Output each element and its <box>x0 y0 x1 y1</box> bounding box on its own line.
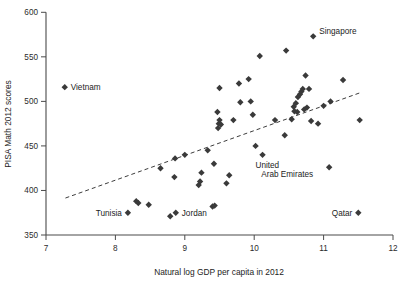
data-point-marker <box>326 164 332 170</box>
data-point-marker <box>282 132 288 138</box>
data-point-marker <box>302 72 308 78</box>
point-label: Vietnam <box>71 83 101 92</box>
x-tick-label: 8 <box>113 244 118 253</box>
y-axis-title: PISA Math 2012 scores <box>3 80 13 168</box>
data-point-marker <box>257 53 263 59</box>
y-tick-label: 550 <box>24 53 38 62</box>
x-axis-ticks: 789101112 <box>44 235 398 253</box>
point-label: Singapore <box>319 27 357 36</box>
data-point-marker <box>182 152 188 158</box>
data-point-marker <box>226 172 232 178</box>
data-point-marker <box>248 98 254 104</box>
point-label: Jordan <box>182 209 207 218</box>
data-point-marker <box>340 77 346 83</box>
x-tick-label: 12 <box>388 244 398 253</box>
data-point-marker <box>306 86 312 92</box>
y-tick-label: 400 <box>24 186 38 195</box>
data-point-marker <box>216 85 222 91</box>
y-axis-ticks: 350400450500550600 <box>24 8 46 240</box>
data-point-marker <box>320 103 326 109</box>
data-point-marker <box>245 76 251 82</box>
data-point-marker <box>283 47 289 53</box>
scatter-chart: 350400450500550600 789101112 VietnamTuni… <box>0 0 404 285</box>
y-tick-label: 450 <box>24 142 38 151</box>
data-point-marker <box>310 33 316 39</box>
data-point-marker <box>250 112 256 118</box>
data-point-marker <box>237 99 243 105</box>
data-point-marker <box>198 169 204 175</box>
point-label: Tunisia <box>96 209 123 218</box>
x-tick-label: 11 <box>319 244 328 253</box>
data-point-marker <box>173 210 179 216</box>
data-point-marker <box>356 117 362 123</box>
data-point-marker <box>62 84 68 90</box>
data-point-marker <box>259 152 265 158</box>
data-point-marker <box>214 109 220 115</box>
y-tick-label: 350 <box>24 231 38 240</box>
point-label: Arab Emirates <box>261 170 313 179</box>
y-tick-label: 500 <box>24 97 38 106</box>
data-point-marker <box>171 174 177 180</box>
data-points <box>62 33 363 219</box>
data-point-marker <box>288 116 294 122</box>
plot-area: 350400450500550600 789101112 VietnamTuni… <box>0 0 404 285</box>
x-tick-label: 7 <box>44 244 49 253</box>
data-point-marker <box>172 155 178 161</box>
data-point-marker <box>223 180 229 186</box>
y-tick-label: 600 <box>24 8 38 17</box>
data-point-marker <box>315 120 321 126</box>
trendline <box>65 93 359 198</box>
data-point-marker <box>167 213 173 219</box>
point-label: United <box>255 161 279 170</box>
x-tick-label: 9 <box>183 244 188 253</box>
data-point-marker <box>146 202 152 208</box>
data-point-marker <box>157 165 163 171</box>
data-point-marker <box>230 117 236 123</box>
data-point-marker <box>125 210 131 216</box>
point-annotations: VietnamTunisiaJordanSingaporeUnitedArab … <box>71 27 357 217</box>
x-axis-title: Natural log GDP per capita in 2012 <box>154 267 284 277</box>
data-point-marker <box>236 80 242 86</box>
data-point-marker <box>252 143 258 149</box>
data-point-marker <box>355 210 361 216</box>
data-point-marker <box>308 118 314 124</box>
data-point-marker <box>327 98 333 104</box>
point-label: Qatar <box>332 209 353 218</box>
data-point-marker <box>211 161 217 167</box>
x-tick-label: 10 <box>250 244 260 253</box>
